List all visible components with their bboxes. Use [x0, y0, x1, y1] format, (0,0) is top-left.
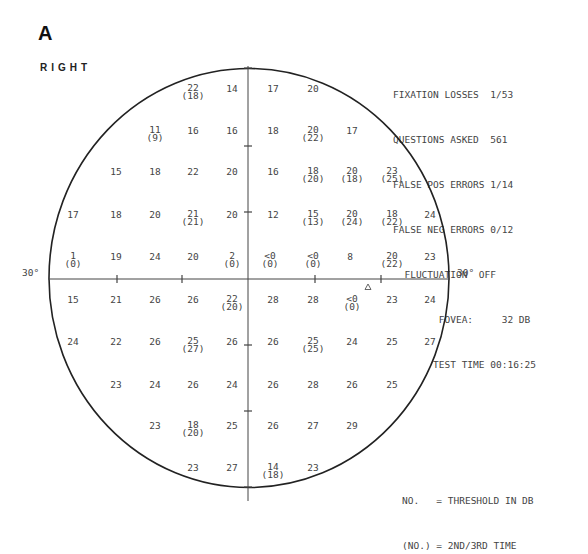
- threshold-value: 23: [187, 464, 198, 472]
- threshold-point: 20(24): [341, 210, 364, 226]
- threshold-value: 23: [110, 381, 121, 389]
- threshold-point: 17: [346, 127, 357, 135]
- threshold-value: 20: [187, 253, 198, 261]
- legend-repeat: (NO.) = 2ND/3RD TIME: [402, 538, 534, 553]
- threshold-point: 14: [226, 85, 237, 93]
- threshold-value: 24: [424, 296, 435, 304]
- repeat-threshold-value: (0): [223, 260, 240, 268]
- threshold-point: 23(25): [381, 167, 404, 183]
- threshold-value: 26: [267, 381, 278, 389]
- threshold-point: 26: [267, 422, 278, 430]
- threshold-point: 17: [267, 85, 278, 93]
- threshold-point: 20(22): [302, 126, 325, 142]
- threshold-point: 27: [424, 338, 435, 346]
- threshold-point: 23: [424, 253, 435, 261]
- repeat-threshold-value: (18): [262, 471, 285, 479]
- repeat-threshold-value: (22): [381, 218, 404, 226]
- threshold-value: 17: [67, 211, 78, 219]
- threshold-value: 26: [187, 381, 198, 389]
- repeat-threshold-value: (20): [221, 303, 244, 311]
- threshold-point: 25: [386, 338, 397, 346]
- threshold-point: <0(0): [261, 252, 278, 268]
- threshold-value: 28: [307, 296, 318, 304]
- threshold-value: 18: [110, 211, 121, 219]
- threshold-point: 26: [187, 296, 198, 304]
- repeat-threshold-value: (18): [182, 92, 205, 100]
- threshold-point: 26: [267, 381, 278, 389]
- threshold-point: 18(22): [381, 210, 404, 226]
- threshold-point: 25: [226, 422, 237, 430]
- repeat-threshold-value: (0): [261, 260, 278, 268]
- threshold-value: 24: [67, 338, 78, 346]
- threshold-point: 27: [307, 422, 318, 430]
- threshold-point: 24: [424, 296, 435, 304]
- threshold-point: 18(20): [182, 421, 205, 437]
- threshold-value: 19: [110, 253, 121, 261]
- threshold-point: 27: [226, 464, 237, 472]
- threshold-value: 27: [226, 464, 237, 472]
- threshold-value: 29: [346, 422, 357, 430]
- threshold-point: 17: [67, 211, 78, 219]
- threshold-point: 24: [67, 338, 78, 346]
- repeat-threshold-value: (25): [302, 345, 325, 353]
- repeat-threshold-value: (0): [64, 260, 81, 268]
- threshold-value: 18: [149, 168, 160, 176]
- repeat-threshold-value: (22): [302, 134, 325, 142]
- threshold-value: 21: [110, 296, 121, 304]
- threshold-point: 16: [187, 127, 198, 135]
- threshold-point: 20: [149, 211, 160, 219]
- threshold-value: 26: [149, 338, 160, 346]
- repeat-threshold-value: (21): [182, 218, 205, 226]
- repeat-threshold-value: (20): [302, 175, 325, 183]
- threshold-value: 17: [346, 127, 357, 135]
- field-boundary-circle: [49, 69, 449, 488]
- threshold-value: 16: [267, 168, 278, 176]
- threshold-value: 20: [307, 85, 318, 93]
- threshold-value: 26: [226, 338, 237, 346]
- blind-spot-triangle-icon: [365, 284, 371, 290]
- threshold-value: 26: [346, 381, 357, 389]
- threshold-value: 16: [187, 127, 198, 135]
- threshold-value: 14: [226, 85, 237, 93]
- threshold-value: 27: [424, 338, 435, 346]
- threshold-point: 22(20): [221, 295, 244, 311]
- threshold-value: 15: [67, 296, 78, 304]
- threshold-point: 1(0): [64, 252, 81, 268]
- threshold-value: 12: [267, 211, 278, 219]
- repeat-threshold-value: (0): [304, 260, 321, 268]
- threshold-value: 25: [386, 381, 397, 389]
- threshold-point: 16: [226, 127, 237, 135]
- threshold-point: 20: [187, 253, 198, 261]
- threshold-value: 17: [267, 85, 278, 93]
- threshold-point: 16: [267, 168, 278, 176]
- legend: NO. = THRESHOLD IN DB (NO.) = 2ND/3RD TI…: [402, 463, 534, 554]
- threshold-value: 24: [346, 338, 357, 346]
- threshold-value: 27: [307, 422, 318, 430]
- threshold-point: 29: [346, 422, 357, 430]
- threshold-point: 15: [110, 168, 121, 176]
- threshold-point: 22(18): [182, 84, 205, 100]
- threshold-point: 21(21): [182, 210, 205, 226]
- repeat-threshold-value: (20): [182, 429, 205, 437]
- threshold-point: 26: [149, 296, 160, 304]
- threshold-value: 26: [187, 296, 198, 304]
- threshold-point: 20(18): [341, 167, 364, 183]
- threshold-point: 23: [307, 464, 318, 472]
- threshold-point: 12: [267, 211, 278, 219]
- repeat-threshold-value: (13): [302, 218, 325, 226]
- threshold-point: 20: [226, 211, 237, 219]
- threshold-point: 23: [386, 296, 397, 304]
- threshold-point: 18: [267, 127, 278, 135]
- threshold-point: 23: [187, 464, 198, 472]
- threshold-point: 22: [187, 168, 198, 176]
- threshold-point: 18: [110, 211, 121, 219]
- threshold-point: 26: [149, 338, 160, 346]
- threshold-point: 8: [347, 253, 353, 261]
- threshold-value: 16: [226, 127, 237, 135]
- repeat-threshold-value: (18): [341, 175, 364, 183]
- threshold-value: 23: [386, 296, 397, 304]
- threshold-value: 22: [187, 168, 198, 176]
- threshold-value: 20: [149, 211, 160, 219]
- threshold-value: 23: [307, 464, 318, 472]
